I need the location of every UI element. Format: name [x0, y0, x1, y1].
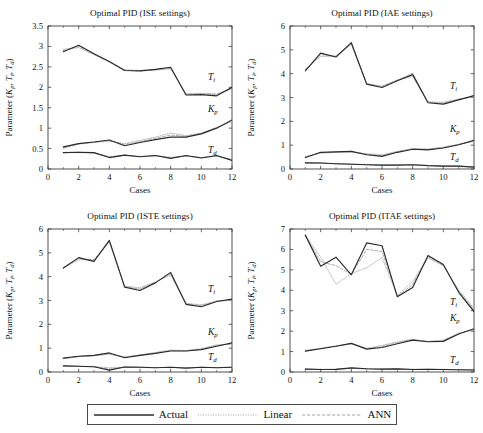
y-tick-label: 3: [281, 93, 285, 103]
x-tick-label: 0: [288, 375, 292, 385]
x-tick-label: 8: [411, 375, 415, 385]
y-tick-label: 6: [281, 21, 286, 31]
svg-text:Parameter (Kp, Ti, Td): Parameter (Kp, Ti, Td): [246, 261, 257, 339]
legend-label: Linear: [263, 409, 292, 420]
y-tick-label: 5: [281, 45, 285, 55]
svg-text:Parameter (Kp, Ti, Td): Parameter (Kp, Ti, Td): [4, 58, 15, 136]
x-tick-label: 12: [228, 375, 237, 385]
plot-canvas-iste: Optimal PID (ISTE settings)0246810120123…: [0, 205, 241, 405]
y-tick-label: 3: [281, 306, 285, 316]
subplot-itae: Optimal PID (ITAE settings)0246810120123…: [242, 205, 483, 405]
x-axis-label: Cases: [372, 185, 393, 195]
x-tick-label: 2: [77, 375, 81, 385]
figure-legend: ActualLinearANN: [87, 404, 397, 425]
x-tick-label: 2: [77, 172, 81, 182]
plot-frame: [48, 26, 232, 169]
y-tick-label: 3.5: [32, 21, 43, 31]
plot-frame: [290, 229, 474, 372]
plot-canvas-itae: Optimal PID (ITAE settings)0246810120123…: [242, 205, 483, 405]
y-tick-label: 0.5: [32, 144, 43, 154]
svg-text:Parameter (Kp, Ti, Td): Parameter (Kp, Ti, Td): [246, 58, 257, 136]
y-tick-label: 0: [39, 367, 43, 377]
y-axis-label: Parameter (Kp, Ti, Td): [4, 58, 15, 136]
x-tick-label: 2: [319, 375, 323, 385]
x-tick-label: 4: [107, 172, 112, 182]
legend-line-actual-icon: [93, 411, 155, 419]
x-tick-label: 12: [470, 375, 479, 385]
x-tick-label: 4: [349, 375, 354, 385]
legend-entry-actual: Actual: [93, 409, 188, 420]
y-tick-label: 0: [281, 164, 285, 174]
x-tick-label: 0: [46, 375, 50, 385]
x-tick-label: 12: [228, 172, 237, 182]
y-tick-label: 4: [39, 272, 44, 282]
x-tick-label: 8: [169, 375, 173, 385]
x-tick-label: 0: [288, 172, 292, 182]
y-tick-label: 5: [39, 248, 43, 258]
x-tick-label: 6: [380, 375, 385, 385]
y-tick-label: 0: [281, 367, 285, 377]
x-tick-label: 4: [107, 375, 112, 385]
x-tick-label: 4: [349, 172, 354, 182]
legend-box: ActualLinearANN: [87, 404, 397, 425]
plot-canvas-ise: Optimal PID (ISE settings)02468101200.51…: [0, 2, 241, 202]
y-tick-label: 1: [39, 343, 43, 353]
legend-line-ann-icon: [301, 411, 363, 419]
y-tick-label: 3: [39, 296, 43, 306]
x-tick-label: 0: [46, 172, 50, 182]
y-tick-label: 5: [281, 265, 285, 275]
subplot-iae: Optimal PID (IAE settings)02468101201234…: [242, 2, 483, 202]
figure-root: Optimal PID (ISE settings)02468101200.51…: [0, 0, 483, 433]
x-tick-label: 10: [197, 375, 206, 385]
plot-canvas-iae: Optimal PID (IAE settings)02468101201234…: [242, 2, 483, 202]
legend-label: Actual: [159, 409, 188, 420]
y-tick-label: 0: [39, 164, 43, 174]
subplot-title: Optimal PID (IAE settings): [331, 8, 432, 18]
legend-entry-ann: ANN: [301, 409, 391, 420]
y-tick-label: 1: [281, 347, 285, 357]
x-tick-label: 6: [138, 375, 143, 385]
plot-frame: [48, 229, 232, 372]
x-tick-label: 8: [411, 172, 415, 182]
subplot-ise: Optimal PID (ISE settings)02468101200.51…: [0, 2, 241, 202]
y-tick-label: 2: [281, 116, 285, 126]
subplot-iste: Optimal PID (ISTE settings)0246810120123…: [0, 205, 241, 405]
subplot-title: Optimal PID (ISTE settings): [87, 211, 192, 221]
y-tick-label: 2: [39, 82, 43, 92]
legend-entry-linear: Linear: [197, 409, 292, 420]
x-tick-label: 6: [380, 172, 385, 182]
y-tick-label: 2.5: [32, 62, 43, 72]
x-axis-label: Cases: [130, 388, 151, 398]
x-tick-label: 2: [319, 172, 323, 182]
y-tick-label: 4: [281, 285, 286, 295]
x-tick-label: 12: [470, 172, 479, 182]
y-tick-label: 2: [39, 319, 43, 329]
x-tick-label: 8: [169, 172, 173, 182]
x-axis-label: Cases: [130, 185, 151, 195]
x-tick-label: 10: [197, 172, 206, 182]
y-tick-label: 4: [281, 69, 286, 79]
subplot-title: Optimal PID (ISE settings): [90, 8, 190, 18]
x-axis-label: Cases: [372, 388, 393, 398]
y-tick-label: 6: [281, 244, 286, 254]
legend-line-linear-icon: [197, 411, 259, 419]
legend-label: ANN: [367, 409, 391, 420]
y-tick-label: 2: [281, 326, 285, 336]
x-tick-label: 10: [439, 172, 448, 182]
y-tick-label: 7: [281, 224, 286, 234]
svg-text:Parameter (Kp, Ti, Td): Parameter (Kp, Ti, Td): [4, 261, 15, 339]
y-axis-label: Parameter (Kp, Ti, Td): [4, 261, 15, 339]
y-tick-label: 3: [39, 41, 43, 51]
subplot-title: Optimal PID (ITAE settings): [329, 211, 435, 221]
y-axis-label: Parameter (Kp, Ti, Td): [246, 58, 257, 136]
y-tick-label: 1: [39, 123, 43, 133]
y-axis-label: Parameter (Kp, Ti, Td): [246, 261, 257, 339]
y-tick-label: 1.5: [32, 103, 43, 113]
x-tick-label: 6: [138, 172, 143, 182]
x-tick-label: 10: [439, 375, 448, 385]
y-tick-label: 6: [39, 224, 44, 234]
y-tick-label: 1: [281, 140, 285, 150]
